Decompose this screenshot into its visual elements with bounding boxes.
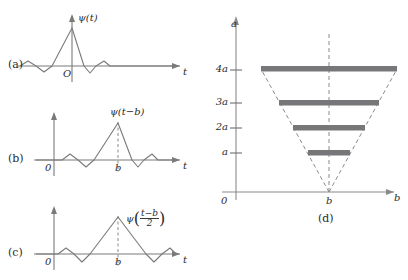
panel-b-curve-label: ψ(t−b)	[110, 106, 144, 117]
panel-c-origin-label: 0	[45, 256, 51, 267]
panel-d-x-axis-label: b	[394, 192, 400, 203]
support-bar-2a	[293, 125, 365, 131]
panel-a-origin-label: O	[63, 68, 71, 79]
panel-d-label: (d)	[318, 212, 334, 225]
panel-d-y-axis	[233, 16, 239, 200]
panel-b-y-axis	[51, 112, 57, 176]
panel-d-plot	[204, 0, 408, 280]
panel-c-shift-tick-label: b	[115, 256, 121, 267]
panel-d-origin-label: 0	[221, 195, 227, 206]
panel-d-apex-label: b	[326, 195, 332, 206]
panel-d-tick-label-2a: 2a	[206, 121, 228, 132]
panel-b-origin-label: 0	[45, 162, 51, 173]
panel-c-curve-label-denominator: 2	[140, 219, 159, 228]
panel-c-y-axis	[51, 206, 57, 270]
panel-a: (a) ψ(t) O t	[0, 0, 200, 90]
panel-d-tick-label-a: a	[206, 146, 228, 157]
support-bar-4a	[261, 66, 397, 72]
panel-a-x-axis-label: t	[183, 66, 187, 77]
panel-a-label: (a)	[8, 58, 23, 71]
wavelet-figure: (a) ψ(t) O t (b) ψ(t−b) 0 b t	[0, 0, 408, 280]
panel-d-tick-label-3a: 3a	[206, 96, 228, 107]
panel-c-x-axis-label: t	[183, 254, 187, 265]
paren-close: )	[159, 209, 165, 228]
panel-c-curve-label: ψ(t−b2)	[126, 210, 165, 230]
panel-b: (b) ψ(t−b) 0 b t	[0, 92, 200, 184]
panel-d: a b 0 b 4a 3a 2a a (d)	[204, 0, 408, 280]
panel-c-label: (c)	[8, 246, 23, 259]
panel-b-plot	[0, 92, 200, 184]
panel-d-x-axis	[222, 189, 394, 195]
panel-b-label: (b)	[8, 152, 24, 165]
panel-d-tick-label-4a: 4a	[206, 63, 228, 74]
panel-c-curve-label-fraction: t−b2	[140, 209, 159, 229]
panel-b-shift-tick-label: b	[115, 162, 121, 173]
panel-d-y-axis-label: a	[231, 18, 237, 29]
panel-c-curve-label-psi: ψ	[126, 213, 134, 224]
panel-c: (c) ψ(t−b2) 0 b t	[0, 186, 200, 280]
panel-a-plot	[0, 0, 200, 90]
support-bar-a	[308, 150, 350, 156]
panel-a-curve-label: ψ(t)	[78, 12, 98, 23]
panel-c-plot	[0, 186, 200, 280]
support-bar-3a	[279, 100, 379, 106]
panel-b-x-axis-label: t	[183, 160, 187, 171]
